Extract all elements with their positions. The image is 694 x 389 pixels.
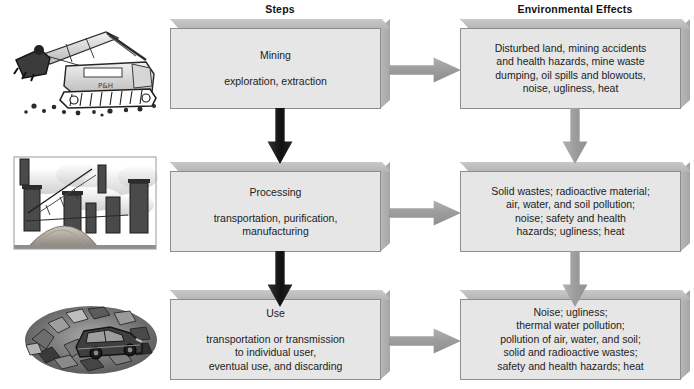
arrow-right-mining-to-effects: [389, 57, 461, 83]
effect-line: Solid wastes; radioactive material;: [468, 185, 673, 199]
effect-box-processing[interactable]: Solid wastes; radioactive material; air,…: [460, 162, 690, 252]
step-box-processing[interactable]: Processing transportation, purification,…: [170, 162, 390, 252]
column-header-environmental-effects: Environmental Effects: [460, 3, 690, 15]
effect-box-face: Disturbed land, mining accidents and hea…: [460, 28, 681, 109]
arrow-down-icon: [267, 108, 293, 164]
arrow-right-icon: [389, 200, 461, 226]
junkyard-scrapped-car-illustration: [18, 285, 164, 380]
effect-line: solid and radioactive wastes;: [468, 346, 673, 360]
industrial-smokestacks-illustration: [6, 155, 164, 255]
effect-box-mining[interactable]: Disturbed land, mining accidents and hea…: [460, 19, 690, 109]
arrow-right-use-to-effects: [389, 328, 461, 354]
effect-line: safety and health hazards; heat: [468, 360, 673, 374]
step-box-face: Use transportation or transmission to in…: [170, 299, 381, 380]
arrow-down-mining-to-processing: [267, 108, 293, 164]
step-subtitle-use-line-3: eventual use, and discarding: [178, 360, 373, 374]
effect-line: pollution of air, water, and soil;: [468, 333, 673, 347]
step-title-mining: Mining: [178, 48, 373, 62]
arrow-right-icon: [389, 57, 461, 83]
arrow-right-processing-to-effects: [389, 200, 461, 226]
arrow-right-icon: [389, 328, 461, 354]
effect-line: noise; safety and health: [468, 212, 673, 226]
effect-line: air, water, and soil pollution;: [468, 198, 673, 212]
effect-box-face: Noise; ugliness; thermal water pollution…: [460, 299, 681, 380]
effect-line: and health hazards, mine waste: [468, 55, 673, 69]
box-side-bevel: [680, 290, 690, 380]
mining-excavator-illustration: P&H: [6, 16, 164, 120]
box-side-bevel: [680, 19, 690, 109]
arrow-down-icon: [267, 251, 293, 307]
step-subtitle-processing-line-1: transportation, purification,: [178, 212, 373, 226]
step-box-mining[interactable]: Mining exploration, extraction: [170, 19, 390, 109]
arrow-down-icon: [562, 251, 588, 307]
effect-line: dumping, oil spills and blowouts,: [468, 69, 673, 83]
effect-box-face: Solid wastes; radioactive material; air,…: [460, 171, 681, 252]
effect-line: noise, ugliness, heat: [468, 82, 673, 96]
diagram-canvas: Steps Environmental Effects: [0, 0, 694, 389]
step-title-processing: Processing: [178, 185, 373, 199]
step-box-face: Processing transportation, purification,…: [170, 171, 381, 252]
step-subtitle-processing-line-2: manufacturing: [178, 225, 373, 239]
effect-line: Disturbed land, mining accidents: [468, 42, 673, 56]
arrow-down-icon: [562, 108, 588, 164]
effect-line: thermal water pollution;: [468, 319, 673, 333]
arrow-down-effects-mining-to-processing: [562, 108, 588, 164]
column-header-steps: Steps: [170, 3, 390, 15]
effect-line: Noise; ugliness;: [468, 306, 673, 320]
step-subtitle-mining: exploration, extraction: [178, 75, 373, 89]
svg-text:P&H: P&H: [98, 82, 113, 90]
step-subtitle-use-line-1: transportation or transmission: [178, 333, 373, 347]
arrow-down-processing-to-use: [267, 251, 293, 307]
step-title-use: Use: [178, 306, 373, 320]
box-side-bevel: [680, 162, 690, 252]
effect-line: hazards; ugliness; heat: [468, 225, 673, 239]
step-subtitle-use-line-2: to individual user,: [178, 346, 373, 360]
arrow-down-effects-processing-to-use: [562, 251, 588, 307]
step-box-face: Mining exploration, extraction: [170, 28, 381, 109]
